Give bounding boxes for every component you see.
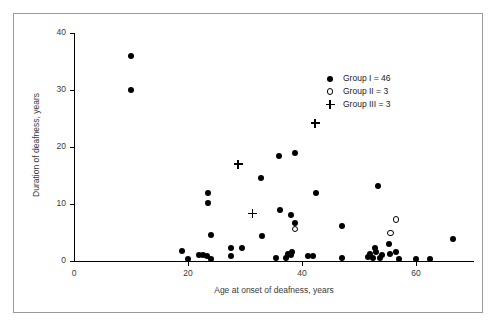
data-point-filled-circle xyxy=(292,150,298,156)
data-point-filled-circle xyxy=(228,245,234,251)
data-point-filled-circle xyxy=(339,255,345,261)
data-point-filled-circle xyxy=(288,212,294,218)
x-axis-title: Age at onset of deafness, years xyxy=(74,285,474,295)
x-tick-20 xyxy=(188,262,189,266)
data-point-plus xyxy=(311,119,320,128)
data-point-filled-circle xyxy=(239,245,245,251)
data-point-filled-circle xyxy=(396,256,402,262)
data-point-open-circle xyxy=(393,216,400,223)
data-point-filled-circle xyxy=(379,252,385,258)
data-point-filled-circle xyxy=(339,223,345,229)
data-point-filled-circle xyxy=(179,248,185,254)
data-point-filled-circle xyxy=(386,241,392,247)
data-point-filled-circle xyxy=(128,53,134,59)
x-tick-60 xyxy=(416,262,417,266)
data-point-filled-circle xyxy=(310,253,316,259)
data-point-filled-circle xyxy=(258,175,264,181)
legend-label-1: Group I = 46 xyxy=(343,72,391,85)
x-tick-40 xyxy=(302,262,303,266)
data-point-filled-circle xyxy=(276,153,282,159)
data-point-filled-circle xyxy=(277,207,283,213)
data-point-filled-circle xyxy=(370,255,376,261)
data-point-filled-circle xyxy=(450,236,456,242)
data-point-filled-circle xyxy=(427,256,433,262)
y-tick-label-0: 0 xyxy=(42,255,66,265)
x-tick-label-20: 20 xyxy=(176,268,200,278)
y-axis-title: Duration of deafness, years xyxy=(31,65,41,225)
legend-marker-plus-icon xyxy=(326,100,335,109)
y-tick-0 xyxy=(70,261,74,262)
y-tick-20 xyxy=(70,147,74,148)
data-point-filled-circle xyxy=(208,256,214,262)
figure-container: 010203040 0204060 Duration of deafness, … xyxy=(0,0,497,328)
data-point-filled-circle xyxy=(228,253,234,259)
legend-label-3: Group III = 3 xyxy=(343,98,391,111)
data-point-filled-circle xyxy=(208,232,214,238)
data-point-plus xyxy=(234,160,243,169)
y-tick-30 xyxy=(70,90,74,91)
y-tick-label-30: 30 xyxy=(42,84,66,94)
data-point-filled-circle xyxy=(205,190,211,196)
data-point-open-circle xyxy=(292,226,299,233)
data-point-plus xyxy=(248,209,257,218)
scatter-plot: 010203040 0204060 Duration of deafness, … xyxy=(0,0,497,328)
data-point-filled-circle xyxy=(128,87,134,93)
legend-marker-open-circle-icon xyxy=(327,88,334,95)
legend-marker-filled-circle-icon xyxy=(327,76,333,82)
data-point-filled-circle xyxy=(185,256,191,262)
data-point-open-circle xyxy=(387,230,394,237)
legend-label-2: Group II = 3 xyxy=(343,85,388,98)
data-point-filled-circle xyxy=(205,200,211,206)
data-point-filled-circle xyxy=(259,233,265,239)
y-tick-label-20: 20 xyxy=(42,141,66,151)
data-point-filled-circle xyxy=(375,183,381,189)
x-tick-label-40: 40 xyxy=(290,268,314,278)
x-tick-label-0: 0 xyxy=(62,268,86,278)
y-tick-label-40: 40 xyxy=(42,27,66,37)
y-tick-label-10: 10 xyxy=(42,198,66,208)
x-tick-label-60: 60 xyxy=(404,268,428,278)
data-point-filled-circle xyxy=(313,190,319,196)
data-point-filled-circle xyxy=(289,249,295,255)
data-point-filled-circle xyxy=(393,249,399,255)
y-axis-line xyxy=(74,33,75,262)
y-tick-10 xyxy=(70,204,74,205)
y-tick-40 xyxy=(70,33,74,34)
